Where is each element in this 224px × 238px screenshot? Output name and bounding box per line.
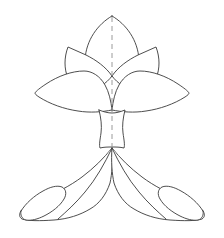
botanical-figure-canvas: Symmetric botanical line drawing Top cen… [0, 0, 224, 238]
botanical-figure-svg: Symmetric botanical line drawing Top cen… [0, 0, 224, 238]
